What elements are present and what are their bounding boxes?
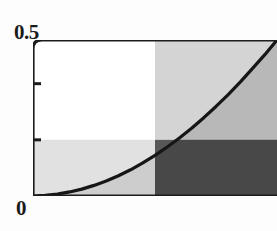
plot-area [33, 40, 277, 196]
y-axis-min-label: 0 [16, 198, 27, 219]
quadrant-lower-right [155, 140, 277, 196]
chart-figure: 0.5 0 [0, 0, 277, 231]
chart-canvas [33, 40, 277, 196]
quadrant-upper-right [155, 40, 277, 140]
